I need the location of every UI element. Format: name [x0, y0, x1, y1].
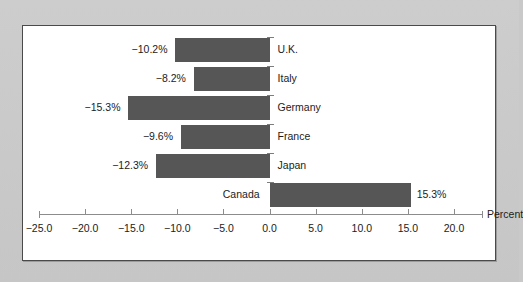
chart-panel: U.K.−10.2%Italy−8.2%Germany−15.3%France−…: [22, 25, 496, 261]
value-label: −8.2%: [156, 73, 186, 84]
zero-baseline-tick: [267, 153, 274, 154]
x-axis-tick: [131, 209, 132, 214]
x-axis-tick-label: −25.0: [15, 223, 63, 234]
x-axis-tick: [85, 209, 86, 214]
x-axis-tick-label: −15.0: [107, 223, 155, 234]
x-axis-tick-label: 20.0: [430, 223, 478, 234]
x-axis: [39, 214, 482, 215]
axis-end-cap-right: [482, 211, 483, 218]
zero-baseline-tick: [267, 124, 274, 125]
x-axis-tick-label: 0.0: [246, 223, 294, 234]
x-axis-tick-label: 10.0: [338, 223, 386, 234]
bar-france: [181, 125, 270, 149]
x-axis-tick-label: 15.0: [384, 223, 432, 234]
x-axis-tick: [362, 209, 363, 214]
plot-area: U.K.−10.2%Italy−8.2%Germany−15.3%France−…: [23, 26, 495, 260]
x-axis-tick: [270, 209, 271, 214]
bar-japan: [156, 154, 269, 178]
x-axis-tick-label: −5.0: [199, 223, 247, 234]
bar-italy: [194, 67, 270, 91]
category-label: U.K.: [278, 44, 298, 55]
axis-end-cap-left: [39, 211, 40, 218]
category-label: Canada: [223, 189, 260, 200]
x-axis-tick-label: −20.0: [61, 223, 109, 234]
zero-baseline-tick: [267, 95, 274, 96]
x-axis-tick: [454, 209, 455, 214]
zero-baseline-tick: [267, 66, 274, 67]
value-label: 15.3%: [417, 189, 447, 200]
category-label: France: [278, 131, 311, 142]
x-axis-tick-label: 5.0: [292, 223, 340, 234]
zero-baseline-tick: [267, 182, 274, 183]
value-label: −10.2%: [132, 44, 168, 55]
value-label: −15.3%: [85, 102, 121, 113]
x-axis-title: Percent: [487, 209, 523, 220]
x-axis-tick-label: −10.0: [153, 223, 201, 234]
category-label: Germany: [278, 102, 321, 113]
value-label: −12.3%: [112, 160, 148, 171]
x-axis-tick: [408, 209, 409, 214]
bar-germany: [128, 96, 269, 120]
x-axis-tick: [316, 209, 317, 214]
x-axis-tick: [177, 209, 178, 214]
value-label: −9.6%: [143, 131, 173, 142]
category-label: Japan: [278, 160, 307, 171]
bar-canada: [270, 183, 411, 207]
category-label: Italy: [278, 73, 297, 84]
bar-u-k: [175, 38, 269, 62]
x-axis-tick: [223, 209, 224, 214]
zero-baseline-tick: [267, 37, 274, 38]
